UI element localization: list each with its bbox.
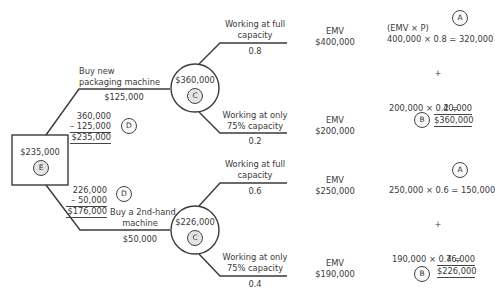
computation-1-line-a: 400,000 × 0.8 = 320,000 bbox=[387, 34, 493, 45]
outcome-2-1-label-line2: capacity bbox=[220, 170, 290, 181]
branch-1-calc-line1: 360,000 bbox=[70, 111, 111, 122]
computation-1-line-b-value: 40,000 bbox=[434, 103, 472, 115]
branch-1-calc-result: $235,000 bbox=[70, 132, 111, 144]
outcome-2-1-label-line1: Working at full bbox=[220, 159, 290, 170]
outcome-1-2-emv-label: EMV bbox=[310, 115, 360, 126]
badge-b-1: B bbox=[414, 112, 430, 128]
branch-1-cost: $125,000 bbox=[79, 92, 169, 103]
badge-a-2: A bbox=[452, 162, 468, 178]
outcome-1-1-emv-label: EMV bbox=[310, 26, 360, 37]
outcome-1-1-emv: $400,000 bbox=[310, 37, 360, 48]
root-value: $235,000 bbox=[12, 147, 68, 158]
outcome-1-1-label-line2: capacity bbox=[220, 30, 290, 41]
computation-2-line-a: 250,000 × 0.6 = 150,000 bbox=[389, 185, 495, 196]
branch-1-label-line2: packaging machine bbox=[79, 77, 160, 88]
outcome-1-1-label-line1: Working at full bbox=[220, 19, 290, 30]
badge-d-1: D bbox=[121, 118, 137, 134]
outcome-1-1-probability: 0.8 bbox=[220, 46, 290, 57]
branch-2-label-line1: Buy a 2nd-hand bbox=[110, 207, 170, 218]
computation-2-total: $226,000 bbox=[437, 266, 475, 278]
computation-1-total: $360,000 bbox=[434, 115, 472, 127]
computation-1-plus: + bbox=[432, 68, 444, 79]
badge-c-1: C bbox=[187, 88, 203, 104]
badge-a-1: A bbox=[452, 10, 468, 26]
computation-2-plus: + bbox=[432, 219, 444, 230]
badge-b-2: B bbox=[414, 266, 430, 282]
badge-e: E bbox=[33, 160, 49, 176]
outcome-2-2-emv-label: EMV bbox=[310, 258, 360, 269]
branch-2-cost: $50,000 bbox=[110, 234, 170, 245]
badge-d-2: D bbox=[116, 186, 132, 202]
outcome-2-2-emv: $190,000 bbox=[310, 269, 360, 280]
decision-tree-diagram: $235,000 E Buy new packaging machine $12… bbox=[0, 0, 495, 303]
branch-2-calc-line1: 226,000 bbox=[66, 185, 107, 196]
outcome-2-2-probability: 0.4 bbox=[220, 279, 290, 290]
chance-node-2-value: $226,000 bbox=[171, 217, 219, 228]
outcome-1-2-label-line1: Working at only bbox=[220, 110, 290, 121]
outcome-1-2-probability: 0.2 bbox=[220, 136, 290, 147]
branch-2-calc-result: $176,000 bbox=[66, 206, 107, 218]
outcome-2-1-emv: $250,000 bbox=[310, 186, 360, 197]
chance-node-1-value: $360,000 bbox=[171, 75, 219, 86]
outcome-2-2-label-line2: 75% capacity bbox=[220, 263, 290, 274]
outcome-1-2-emv: $200,000 bbox=[310, 126, 360, 137]
computation-1-header: (EMV × P) bbox=[387, 23, 429, 34]
branch-2-calc-line2: – 50,000 bbox=[66, 195, 107, 207]
outcome-2-1-probability: 0.6 bbox=[220, 186, 290, 197]
branch-2-label-line2: machine bbox=[110, 218, 170, 229]
outcome-1-2-label-line2: 75% capacity bbox=[220, 121, 290, 132]
outcome-2-1-emv-label: EMV bbox=[310, 175, 360, 186]
branch-1-label-line1: Buy new bbox=[79, 66, 115, 77]
branch-1-calc-line2: – 125,000 bbox=[70, 121, 111, 133]
badge-c-2: C bbox=[187, 230, 203, 246]
outcome-2-2-label-line1: Working at only bbox=[220, 252, 290, 263]
computation-2-line-b-value: 76,000 bbox=[437, 254, 475, 266]
